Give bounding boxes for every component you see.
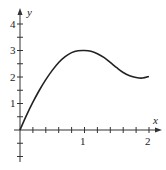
x-tick-label-1: 1 bbox=[80, 135, 86, 147]
function-graph: y x 4 3 2 1 1 2 bbox=[0, 0, 166, 170]
y-axis-arrow-icon bbox=[18, 8, 23, 15]
x-axis-label: x bbox=[152, 114, 158, 126]
x-axis-arrow-icon bbox=[155, 128, 162, 133]
x-tick-label-2: 2 bbox=[145, 135, 151, 147]
y-axis-label: y bbox=[26, 6, 32, 18]
y-tick-label-3: 3 bbox=[10, 44, 16, 56]
y-tick-label-4: 4 bbox=[10, 18, 16, 30]
y-tick-label-2: 2 bbox=[10, 71, 16, 83]
plot-canvas: y x 4 3 2 1 1 2 bbox=[0, 0, 166, 170]
function-curve bbox=[20, 50, 149, 130]
y-tick-label-1: 1 bbox=[10, 97, 16, 109]
